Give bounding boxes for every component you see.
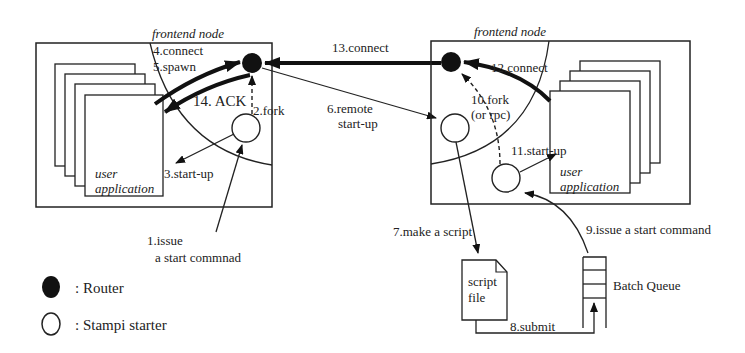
right-frontend-node: frontend node user application 12.connec…	[431, 24, 690, 204]
legend: : Router : Stampi starter	[42, 276, 167, 335]
left-app-label-2: application	[95, 181, 154, 196]
right-router-icon	[441, 52, 461, 72]
step-5-label: 5.spawn	[153, 59, 196, 74]
right-app-label-1: user	[560, 164, 583, 179]
right-user-application-stack: user application	[550, 61, 660, 194]
arrow-9-issue-start	[525, 193, 588, 253]
step-10-label-1: 10.fork	[471, 92, 509, 107]
step-6-label-2: start-up	[338, 116, 378, 131]
legend-stampi-starter-icon	[42, 313, 60, 335]
right-app-label-2: application	[560, 179, 619, 194]
right-stampi-starter-lower-icon	[492, 164, 520, 192]
batch-queue: Batch Queue	[583, 257, 681, 328]
batch-queue-label: Batch Queue	[613, 278, 681, 293]
left-app-label-1: user	[95, 166, 118, 181]
left-router-icon	[242, 53, 262, 73]
step-2-label: 2.fork	[253, 103, 285, 118]
script-file-label-2: file	[468, 290, 486, 305]
right-stampi-starter-upper-icon	[441, 114, 469, 142]
step-14-label: 14. ACK	[193, 93, 247, 109]
stampi-startup-diagram: frontend node user application 4.connect…	[0, 0, 745, 353]
step-8-label: 8.submit	[510, 319, 556, 334]
step-11-label: 11.start-up	[511, 143, 566, 158]
left-frontend-node: frontend node user application 4.connect…	[36, 26, 285, 232]
step-1-label-1: 1.issue	[147, 233, 183, 248]
script-file-icon: script file	[462, 260, 507, 320]
step-10-label-2: (or rpc)	[471, 107, 510, 122]
legend-stampi-starter-label: : Stampi starter	[75, 317, 167, 333]
step-3-label: 3.start-up	[164, 166, 213, 181]
script-file-label-1: script	[468, 274, 497, 289]
legend-router-icon	[42, 276, 60, 298]
left-user-application-stack: user application	[55, 64, 163, 196]
left-stampi-starter-icon	[232, 114, 260, 142]
legend-router-label: : Router	[75, 280, 124, 296]
step-7-label: 7.make a script	[393, 224, 472, 239]
step-4-label: 4.connect	[153, 43, 204, 58]
step-9-label: 9.issue a start command	[586, 222, 711, 237]
step-6-label-1: 6.remote	[327, 101, 373, 116]
right-node-label: frontend node	[474, 24, 546, 39]
left-node-label: frontend node	[152, 26, 224, 41]
step-12-label: 12.connect	[491, 60, 548, 75]
arrow-1-issue	[216, 145, 242, 232]
step-13-label: 13.connect	[332, 40, 389, 55]
step-1-label-2: a start commnad	[155, 250, 241, 265]
